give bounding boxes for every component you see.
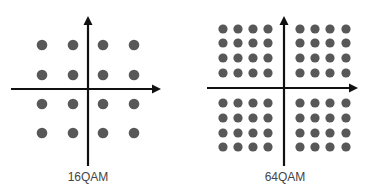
constellation-point <box>341 24 350 33</box>
constellation-point <box>325 113 334 122</box>
constellation-point <box>218 53 227 62</box>
label-16qam: 16QAM <box>68 170 109 184</box>
constellation-point <box>37 128 48 139</box>
constellation-point <box>295 24 304 33</box>
constellation-point <box>98 40 109 51</box>
constellation-point <box>68 128 79 139</box>
constellation-point <box>129 128 140 139</box>
constellation-point <box>98 128 109 139</box>
constellation-point <box>263 98 272 107</box>
constellation-point <box>98 70 109 81</box>
constellation-point <box>263 38 272 47</box>
constellation-point <box>325 38 334 47</box>
constellation-16qam <box>11 16 161 166</box>
constellation-point <box>129 40 140 51</box>
constellation-point <box>263 142 272 151</box>
constellation-point <box>37 99 48 110</box>
constellation-point <box>310 113 319 122</box>
constellation-point <box>218 38 227 47</box>
constellation-point <box>341 142 350 151</box>
constellation-point <box>68 70 79 81</box>
constellation-point <box>233 38 242 47</box>
constellation-point <box>129 70 140 81</box>
constellation-point <box>295 128 304 137</box>
constellation-point <box>295 53 304 62</box>
constellation-point <box>263 128 272 137</box>
constellation-point <box>341 68 350 77</box>
constellation-point <box>233 53 242 62</box>
constellation-point <box>233 24 242 33</box>
constellation-point <box>341 113 350 122</box>
constellation-point <box>248 128 257 137</box>
constellation-point <box>325 24 334 33</box>
constellation-point <box>233 128 242 137</box>
constellation-point <box>325 98 334 107</box>
constellation-point <box>68 99 79 110</box>
constellation-point <box>233 142 242 151</box>
constellation-point <box>218 128 227 137</box>
constellation-point <box>310 128 319 137</box>
constellation-point <box>325 68 334 77</box>
arrow-up-icon <box>84 16 93 25</box>
constellation-point <box>218 113 227 122</box>
constellation-point <box>325 53 334 62</box>
constellation-point <box>295 38 304 47</box>
constellation-point <box>310 24 319 33</box>
constellation-point <box>341 53 350 62</box>
constellation-point <box>248 24 257 33</box>
constellation-point <box>295 68 304 77</box>
constellation-point <box>295 113 304 122</box>
constellation-point <box>263 113 272 122</box>
constellation-point <box>295 142 304 151</box>
constellation-point <box>233 98 242 107</box>
arrow-right-icon <box>152 85 161 94</box>
constellation-point <box>248 53 257 62</box>
constellation-point <box>233 113 242 122</box>
constellation-point <box>98 99 109 110</box>
constellation-point <box>325 128 334 137</box>
constellation-point <box>325 142 334 151</box>
constellation-point <box>263 24 272 33</box>
constellation-point <box>310 38 319 47</box>
constellation-point <box>341 98 350 107</box>
label-64qam: 64QAM <box>265 170 306 184</box>
constellation-point <box>233 68 242 77</box>
constellation-point <box>218 142 227 151</box>
constellation-point <box>248 113 257 122</box>
constellation-point <box>341 128 350 137</box>
constellation-point <box>248 98 257 107</box>
arrow-right-icon <box>349 84 358 93</box>
constellation-point <box>37 40 48 51</box>
constellation-point <box>263 53 272 62</box>
constellation-point <box>248 38 257 47</box>
constellation-point <box>248 142 257 151</box>
constellation-point <box>248 68 257 77</box>
constellation-point <box>310 53 319 62</box>
arrow-up-icon <box>280 16 289 25</box>
constellation-point <box>37 70 48 81</box>
constellation-point <box>310 68 319 77</box>
constellation-point <box>310 98 319 107</box>
constellation-point <box>310 142 319 151</box>
constellation-point <box>295 98 304 107</box>
constellation-point <box>218 24 227 33</box>
constellation-point <box>218 98 227 107</box>
constellation-point <box>129 99 140 110</box>
constellation-point <box>263 68 272 77</box>
constellation-point <box>218 68 227 77</box>
constellation-point <box>341 38 350 47</box>
constellation-point <box>68 40 79 51</box>
qam-constellation-figure: 16QAM 64QAM <box>0 0 367 189</box>
constellation-64qam <box>207 16 358 166</box>
